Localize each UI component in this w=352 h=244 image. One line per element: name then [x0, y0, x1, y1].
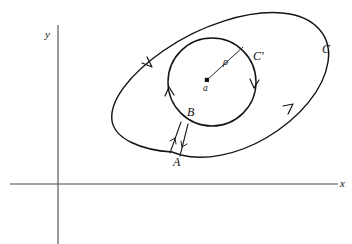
inner-circle-path	[168, 38, 256, 126]
center-label: a	[203, 84, 208, 94]
point-b-label: B	[187, 106, 194, 118]
inner-circle-arrow-right	[250, 79, 259, 88]
y-axis-label: y	[45, 29, 50, 40]
outer-contour-path	[112, 13, 329, 158]
inner-curve-label: C'	[253, 50, 264, 62]
outer-contour-arrow-lower-right	[283, 104, 293, 114]
figure-canvas: y x C C' A B a ρ	[0, 0, 352, 244]
axes-group	[10, 25, 338, 244]
cut-group	[170, 122, 188, 156]
x-axis-label: x	[340, 178, 345, 189]
cut-segment-inbound	[180, 124, 188, 156]
outer-curve-label: C	[322, 43, 330, 55]
center-point-marker	[205, 78, 209, 82]
cut-segment-outbound	[170, 122, 181, 153]
inner-circle-group	[165, 38, 259, 126]
radius-label: ρ	[223, 57, 228, 68]
outer-contour-group	[112, 13, 329, 158]
contour-diagram-svg	[0, 0, 352, 244]
point-a-label: A	[173, 156, 180, 168]
